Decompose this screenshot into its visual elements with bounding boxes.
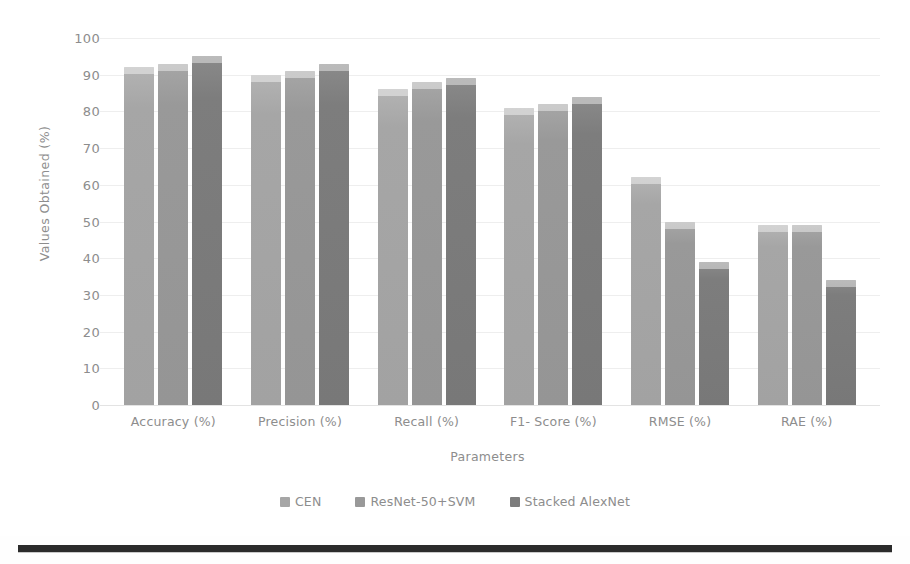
legend-label: CEN — [295, 494, 322, 509]
bar[interactable] — [158, 64, 188, 405]
bar-highlight — [158, 64, 188, 71]
legend-label: ResNet-50+SVM — [370, 494, 475, 509]
gridline — [100, 405, 880, 406]
bar-group — [237, 38, 364, 405]
y-axis-title: Values Obtained (%) — [37, 104, 52, 284]
bar-highlight — [538, 104, 568, 111]
bar-highlight — [124, 67, 154, 74]
bar[interactable] — [758, 225, 788, 405]
bar[interactable] — [378, 89, 408, 405]
bar-highlight — [758, 225, 788, 232]
x-axis-tick: RMSE (%) — [617, 414, 744, 429]
bar[interactable] — [792, 225, 822, 405]
legend-label: Stacked AlexNet — [525, 494, 631, 509]
y-axis-tick: 50 — [56, 214, 100, 229]
plot-area — [100, 38, 880, 405]
bar-highlight — [378, 89, 408, 96]
bar-highlight — [792, 225, 822, 232]
y-axis-tick: 40 — [56, 251, 100, 266]
bar-group — [110, 38, 237, 405]
x-axis-tick: Accuracy (%) — [110, 414, 237, 429]
legend-item[interactable]: ResNet-50+SVM — [355, 494, 475, 509]
chart-page: Values Obtained (%) 10090807060504030201… — [0, 0, 910, 564]
y-axis-tick: 0 — [56, 398, 100, 413]
bar[interactable] — [319, 64, 349, 405]
chart-legend: CENResNet-50+SVMStacked AlexNet — [0, 494, 910, 509]
legend-item[interactable]: Stacked AlexNet — [510, 494, 631, 509]
y-axis-tick: 20 — [56, 324, 100, 339]
bar-highlight — [665, 222, 695, 229]
bar[interactable] — [285, 71, 315, 405]
bar-highlight — [504, 108, 534, 115]
legend-swatch-icon — [510, 497, 520, 507]
y-axis-tick: 10 — [56, 361, 100, 376]
bar[interactable] — [538, 104, 568, 405]
x-axis-title: Parameters — [95, 449, 880, 464]
bar[interactable] — [412, 82, 442, 405]
bar-highlight — [412, 82, 442, 89]
y-axis-tick: 70 — [56, 141, 100, 156]
grouped-bar-chart: Values Obtained (%) 10090807060504030201… — [0, 0, 910, 536]
bar-group — [363, 38, 490, 405]
bar-highlight — [285, 71, 315, 78]
bar-highlight — [319, 64, 349, 71]
bar[interactable] — [446, 78, 476, 405]
bar[interactable] — [192, 56, 222, 405]
bar-highlight — [446, 78, 476, 85]
bar[interactable] — [826, 280, 856, 405]
bar-group — [490, 38, 617, 405]
bar-groups — [100, 38, 880, 405]
x-axis-tick: Recall (%) — [363, 414, 490, 429]
x-axis-tick-labels: Accuracy (%)Precision (%)Recall (%)F1- S… — [100, 414, 880, 429]
bar-highlight — [699, 262, 729, 269]
legend-swatch-icon — [355, 497, 365, 507]
x-axis-tick: RAE (%) — [743, 414, 870, 429]
legend-item[interactable]: CEN — [280, 494, 322, 509]
bar-highlight — [192, 56, 222, 63]
y-axis-tick: 80 — [56, 104, 100, 119]
x-axis-tick: F1- Score (%) — [490, 414, 617, 429]
bar-highlight — [251, 75, 281, 82]
bar[interactable] — [124, 67, 154, 405]
bar[interactable] — [572, 97, 602, 405]
y-axis-tick: 90 — [56, 67, 100, 82]
bar-highlight — [631, 177, 661, 184]
bar-highlight — [826, 280, 856, 287]
bar[interactable] — [251, 75, 281, 405]
y-axis-tick: 100 — [56, 31, 100, 46]
x-axis-tick: Precision (%) — [237, 414, 364, 429]
footer-rule — [18, 545, 892, 552]
bar-highlight — [572, 97, 602, 104]
bar[interactable] — [631, 177, 661, 405]
bar[interactable] — [504, 108, 534, 405]
y-axis-tick: 60 — [56, 177, 100, 192]
bar-group — [743, 38, 870, 405]
legend-swatch-icon — [280, 497, 290, 507]
bar[interactable] — [699, 262, 729, 405]
y-axis-tick-labels: 1009080706050403020100 — [56, 0, 100, 420]
y-axis-tick: 30 — [56, 287, 100, 302]
bar[interactable] — [665, 222, 695, 406]
bar-group — [617, 38, 744, 405]
